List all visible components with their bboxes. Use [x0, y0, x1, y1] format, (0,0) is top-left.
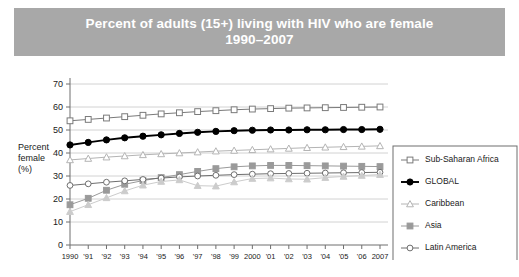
legend-marker-1	[407, 179, 413, 185]
x-tick-label: '06	[357, 252, 367, 260]
series-marker-0	[122, 114, 128, 120]
series-marker-1	[213, 128, 219, 134]
series-marker-0	[359, 104, 365, 110]
legend-label-3[interactable]: Asia	[425, 220, 442, 230]
x-tick-label: '05	[339, 252, 349, 260]
series-marker-4	[122, 178, 128, 184]
legend-label-1[interactable]: GLOBAL	[425, 176, 459, 186]
series-marker-4	[104, 179, 110, 185]
series-marker-1	[195, 129, 201, 135]
y-tick-label: 10	[53, 217, 63, 227]
legend-label-0[interactable]: Sub-Saharan Africa	[425, 154, 499, 164]
series-marker-1	[140, 133, 146, 139]
series-marker-4	[231, 172, 237, 178]
series-marker-0	[67, 118, 73, 124]
series-marker-3	[104, 187, 110, 193]
x-tick-label: 2000	[244, 252, 261, 260]
series-marker-4	[213, 172, 219, 178]
series-marker-1	[85, 139, 91, 145]
y-tick-label: 40	[53, 148, 63, 158]
series-marker-0	[140, 112, 146, 118]
series-marker-5	[67, 208, 74, 214]
chart-title-line-2: 1990–2007	[225, 32, 293, 48]
series-marker-3	[377, 164, 383, 170]
series-marker-0	[249, 106, 255, 112]
x-tick-label: '97	[193, 252, 203, 260]
legend-marker-4	[407, 245, 413, 251]
x-tick-label: '02	[284, 252, 294, 260]
x-tick-label: '91	[83, 252, 93, 260]
series-marker-4	[67, 183, 73, 189]
series-marker-0	[377, 104, 383, 110]
series-marker-1	[158, 132, 164, 138]
series-marker-0	[104, 115, 110, 121]
series-marker-3	[213, 166, 219, 172]
y-axis-title: (%)	[18, 164, 32, 174]
series-marker-1	[304, 127, 310, 133]
series-marker-5	[85, 201, 92, 207]
series-line-4	[70, 172, 380, 185]
series-marker-3	[322, 163, 328, 169]
series-marker-3	[359, 163, 365, 169]
x-tick-label: '92	[102, 252, 112, 260]
series-line-5	[70, 175, 380, 212]
y-axis-title: Percent	[18, 142, 50, 152]
legend-label-5[interactable]: Eastern Europe	[425, 259, 484, 260]
series-marker-0	[268, 106, 274, 112]
series-marker-1	[322, 127, 328, 133]
chart-title-line-1: Percent of adults (15+) living with HIV …	[86, 16, 434, 32]
series-marker-1	[340, 126, 346, 132]
x-tick-label: '99	[229, 252, 239, 260]
series-marker-3	[231, 164, 237, 170]
y-axis-title: female	[18, 153, 45, 163]
x-tick-label: '93	[120, 252, 130, 260]
x-tick-label: '01	[266, 252, 276, 260]
series-marker-0	[213, 108, 219, 114]
series-marker-1	[122, 135, 128, 141]
line-chart: 0102030405060701990'91'92'93'94'95'96'97…	[0, 60, 519, 260]
series-marker-4	[85, 181, 91, 187]
series-line-0	[70, 107, 380, 121]
series-marker-0	[231, 107, 237, 113]
series-marker-3	[249, 163, 255, 169]
x-tick-label: 2007	[372, 252, 389, 260]
y-tick-label: 0	[58, 240, 63, 250]
x-tick-label: '98	[211, 252, 221, 260]
series-marker-1	[231, 128, 237, 134]
series-marker-0	[195, 109, 201, 115]
y-tick-label: 20	[53, 194, 63, 204]
series-marker-1	[67, 142, 73, 148]
series-marker-3	[304, 163, 310, 169]
chart-title-banner: Percent of adults (15+) living with HIV …	[14, 8, 505, 56]
series-line-1	[70, 129, 380, 145]
series-marker-0	[341, 105, 347, 111]
series-marker-1	[377, 126, 383, 132]
x-tick-label: 1990	[62, 252, 79, 260]
series-marker-4	[195, 173, 201, 179]
chart-svg: 0102030405060701990'91'92'93'94'95'96'97…	[0, 60, 519, 260]
y-tick-label: 30	[53, 171, 63, 181]
x-tick-label: '96	[175, 252, 185, 260]
series-marker-0	[177, 110, 183, 116]
series-marker-1	[359, 126, 365, 132]
y-tick-label: 60	[53, 102, 63, 112]
legend-marker-0	[407, 157, 413, 163]
legend-marker-3	[407, 223, 413, 229]
legend-label-4[interactable]: Latin America	[425, 242, 477, 252]
x-tick-label: '04	[320, 252, 330, 260]
series-marker-1	[286, 127, 292, 133]
series-marker-1	[249, 127, 255, 133]
series-marker-1	[176, 130, 182, 136]
series-marker-0	[286, 105, 292, 111]
legend-label-2[interactable]: Caribbean	[425, 198, 464, 208]
series-marker-0	[85, 117, 91, 123]
series-marker-3	[341, 163, 347, 169]
series-marker-0	[158, 111, 164, 117]
series-marker-0	[304, 105, 310, 111]
series-marker-3	[286, 163, 292, 169]
series-marker-3	[67, 202, 73, 208]
series-marker-1	[267, 127, 273, 133]
series-marker-5	[103, 194, 110, 200]
x-tick-label: '95	[156, 252, 166, 260]
x-tick-label: '03	[302, 252, 312, 260]
